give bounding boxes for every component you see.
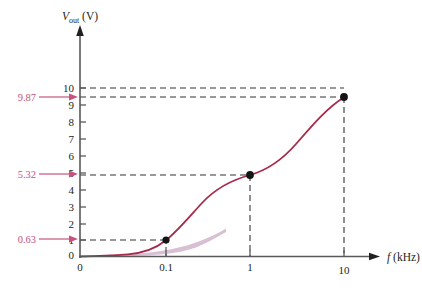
- callout-label-5-32: 5.32: [18, 169, 36, 180]
- y-tick-label-9: 9: [69, 99, 75, 111]
- y-tick-marks: [80, 88, 86, 240]
- x-tick-label-1: 1: [247, 261, 253, 273]
- y-tick-label-10: 10: [63, 82, 75, 94]
- x-tick-label-10: 10: [339, 264, 351, 276]
- y-axis-title-unit: (V): [79, 10, 98, 23]
- curve-underfill-shading: [80, 229, 226, 257]
- y-tick-label-8: 8: [69, 116, 75, 128]
- y-tick-label-2: 2: [69, 218, 75, 230]
- x-tick-label-0: 0: [77, 261, 83, 273]
- x-tick-marks: [166, 251, 344, 257]
- response-curve: [80, 97, 344, 256]
- y-axis-title: Vout (V): [62, 10, 98, 25]
- x-axis-title: f (kHz): [387, 251, 420, 264]
- y-tick-label-4: 4: [69, 184, 75, 196]
- data-point-0-63: [162, 236, 169, 243]
- y-tick-label-3: 3: [69, 201, 75, 213]
- x-axis-title-unit: (kHz): [390, 251, 420, 264]
- y-axis-arrowhead: [76, 25, 84, 36]
- callout-label-9-87: 9.87: [18, 92, 36, 103]
- chart-container: 10 9 8 7 6 5 4 3 2 1 0 0 0.1 1 10: [0, 0, 422, 291]
- y-tick-label-0: 0: [69, 249, 75, 261]
- data-point-9-87: [340, 93, 348, 101]
- data-point-5-32: [246, 171, 254, 179]
- x-tick-label-0-1: 0.1: [159, 261, 173, 273]
- callout-label-0-63: 0.63: [18, 234, 36, 245]
- x-axis-arrowhead: [369, 253, 380, 260]
- y-tick-label-7: 7: [69, 133, 75, 145]
- filter-response-chart: 10 9 8 7 6 5 4 3 2 1 0 0 0.1 1 10: [0, 0, 422, 291]
- y-tick-label-6: 6: [69, 150, 75, 162]
